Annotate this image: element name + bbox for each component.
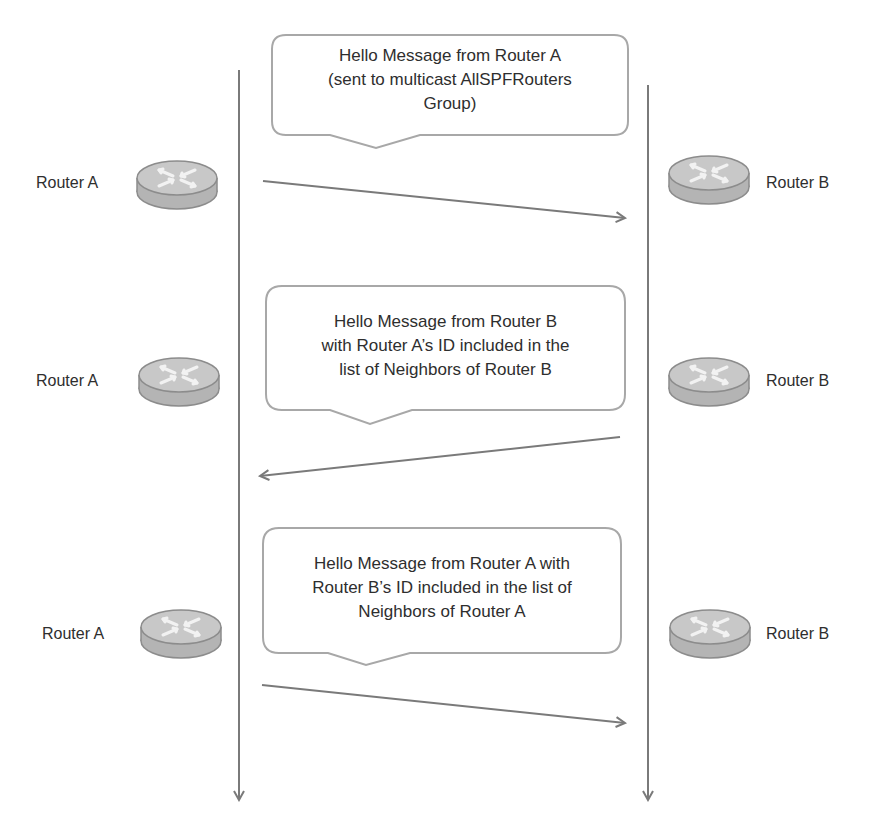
message-arrow-2 (260, 437, 620, 476)
callout-3-text: Hello Message from Router A with Router … (263, 552, 621, 624)
callout-line: Hello Message from Router A with (263, 552, 621, 576)
router-icon (670, 610, 750, 658)
sequence-diagram (0, 0, 884, 840)
router-icon (669, 156, 749, 204)
callout-line: Hello Message from Router A (272, 44, 628, 68)
router-a-label: Router A (36, 372, 98, 390)
callout-line: Group) (272, 92, 628, 116)
callout-1-text: Hello Message from Router A (sent to mul… (272, 44, 628, 116)
router-b-label: Router B (766, 372, 829, 390)
router-a-label: Router A (36, 174, 98, 192)
router-icon (669, 358, 749, 406)
router-icon (139, 358, 219, 406)
router-b-label: Router B (766, 174, 829, 192)
callout-line: (sent to multicast AllSPFRouters (272, 68, 628, 92)
router-b-label: Router B (766, 625, 829, 643)
router-icon (141, 610, 221, 658)
callout-2-text: Hello Message from Router B with Router … (266, 310, 625, 382)
router-a-label: Router A (42, 625, 104, 643)
callout-line: with Router A’s ID included in the (266, 334, 625, 358)
callout-line: Router B’s ID included in the list of (263, 576, 621, 600)
message-arrow-3 (262, 685, 625, 723)
message-arrow-1 (263, 181, 625, 218)
callout-line: list of Neighbors of Router B (266, 358, 625, 382)
callout-line: Neighbors of Router A (263, 600, 621, 624)
callout-line: Hello Message from Router B (266, 310, 625, 334)
router-icon (137, 161, 217, 209)
